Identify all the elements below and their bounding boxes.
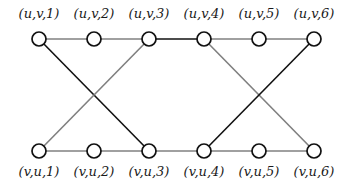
edges-layer	[39, 39, 314, 151]
node-label-vu5: (v,u,5)	[239, 164, 280, 179]
node-label-vu4: (v,u,4)	[184, 164, 225, 179]
node-vu2	[87, 144, 101, 158]
node-vu5	[252, 144, 266, 158]
node-label-vu2: (v,u,2)	[74, 164, 115, 179]
node-label-uv5: (u,v,5)	[239, 6, 280, 21]
node-label-vu6: (v,u,6)	[294, 164, 335, 179]
node-label-uv6: (u,v,6)	[294, 6, 335, 21]
nodes-layer	[32, 32, 321, 158]
node-label-vu3: (v,u,3)	[129, 164, 170, 179]
node-label-uv1: (u,v,1)	[19, 6, 60, 21]
node-label-uv4: (u,v,4)	[184, 6, 225, 21]
node-uv3	[142, 32, 156, 46]
graph-diagram	[0, 0, 350, 188]
node-label-vu1: (v,u,1)	[19, 164, 60, 179]
node-vu3	[142, 144, 156, 158]
node-uv4	[197, 32, 211, 46]
node-vu6	[307, 144, 321, 158]
node-uv6	[307, 32, 321, 46]
node-uv5	[252, 32, 266, 46]
node-label-uv3: (u,v,3)	[129, 6, 170, 21]
node-uv2	[87, 32, 101, 46]
node-label-uv2: (u,v,2)	[74, 6, 115, 21]
node-uv1	[32, 32, 46, 46]
node-vu1	[32, 144, 46, 158]
node-vu4	[197, 144, 211, 158]
